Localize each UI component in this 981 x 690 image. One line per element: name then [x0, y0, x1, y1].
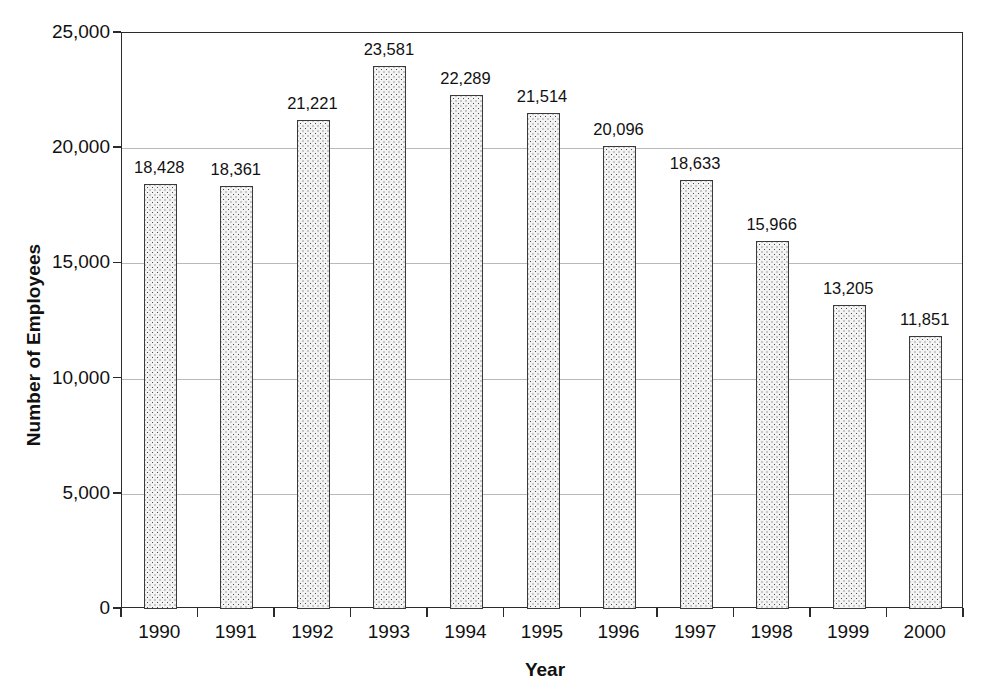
plot-area [121, 32, 963, 608]
x-axis-tick-mark [580, 608, 582, 617]
bar [833, 305, 866, 609]
x-axis-tick-mark [886, 608, 888, 617]
y-axis-tick-label: 0 [2, 598, 110, 617]
x-axis-tick-mark [426, 608, 428, 617]
bar [909, 336, 942, 609]
bar [373, 66, 406, 609]
bar-value-label: 21,514 [487, 88, 597, 105]
bar-value-label: 18,361 [181, 161, 291, 178]
y-axis-tick-mark [113, 146, 121, 148]
y-axis-tick-label: 5,000 [2, 483, 110, 502]
bar-value-label: 21,221 [257, 95, 367, 112]
y-axis-tick-label: 15,000 [2, 252, 110, 271]
y-axis-tick-mark [113, 31, 121, 33]
y-axis-tick-label: 25,000 [2, 22, 110, 41]
x-axis-tick-label: 2000 [870, 621, 980, 643]
bar [603, 146, 636, 609]
y-axis-tick-label: 10,000 [2, 368, 110, 387]
y-axis-tick-label: 20,000 [2, 137, 110, 156]
x-axis-tick-mark [809, 608, 811, 617]
bar-value-label: 11,851 [870, 311, 980, 328]
x-axis-title: Year [445, 659, 645, 681]
x-axis-tick-mark [120, 608, 122, 617]
bar [144, 184, 177, 609]
x-axis-tick-mark [503, 608, 505, 617]
y-axis-tick-mark [113, 492, 121, 494]
bar-value-label: 23,581 [334, 41, 444, 58]
x-axis-tick-mark [350, 608, 352, 617]
x-axis-tick-mark [656, 608, 658, 617]
y-axis-tick-mark [113, 377, 121, 379]
y-axis-tick-mark [113, 262, 121, 264]
y-axis-title: Number of Employees [23, 185, 45, 505]
x-axis-tick-mark [273, 608, 275, 617]
bar [450, 95, 483, 609]
x-axis-tick-mark [197, 608, 199, 617]
x-axis-tick-mark [733, 608, 735, 617]
bar-value-label: 15,966 [717, 216, 827, 233]
bar [527, 113, 560, 609]
bar-value-label: 13,205 [793, 280, 903, 297]
bar [220, 186, 253, 609]
bar-value-label: 22,289 [410, 70, 520, 87]
bar [756, 241, 789, 609]
bar-chart: Number of Employees Year 05,00010,00015,… [0, 0, 981, 690]
bar [297, 120, 330, 609]
x-axis-tick-mark [962, 608, 964, 617]
bar-value-label: 18,633 [640, 155, 750, 172]
bar-value-label: 20,096 [564, 121, 674, 138]
bar [680, 180, 713, 609]
